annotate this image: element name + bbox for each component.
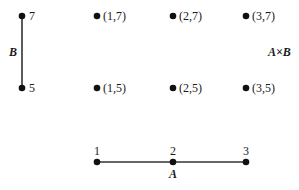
label-2-7: (2,7) xyxy=(179,9,202,23)
point-1-7 xyxy=(94,13,101,20)
label-set-b: B xyxy=(8,45,17,59)
point-3-7 xyxy=(243,13,250,20)
label-a-2: 2 xyxy=(170,144,176,158)
label-1-7: (1,7) xyxy=(103,9,126,23)
product-grid: (1,7) (2,7) (3,7) (1,5) (2,5) (3,5) A×B xyxy=(94,9,291,95)
label-3-5: (3,5) xyxy=(252,81,275,95)
label-b-7: 7 xyxy=(29,9,35,23)
point-2-5 xyxy=(170,85,177,92)
label-b-5: 5 xyxy=(29,81,35,95)
label-a-3: 3 xyxy=(243,144,249,158)
point-b-7 xyxy=(19,13,26,20)
label-set-a: A xyxy=(168,167,177,181)
point-1-5 xyxy=(94,85,101,92)
cartesian-product-diagram: 7 5 B (1,7) (2,7) (3,7) (1,5) (2,5) (3,5… xyxy=(0,0,299,190)
label-3-7: (3,7) xyxy=(252,9,275,23)
point-a-3 xyxy=(243,159,250,166)
set-b: 7 5 B xyxy=(8,9,35,95)
label-product: A×B xyxy=(267,45,291,59)
point-a-2 xyxy=(170,159,177,166)
set-a: 1 2 3 A xyxy=(94,144,250,181)
label-a-1: 1 xyxy=(94,144,100,158)
point-a-1 xyxy=(94,159,101,166)
label-1-5: (1,5) xyxy=(103,81,126,95)
point-b-5 xyxy=(19,85,26,92)
label-2-5: (2,5) xyxy=(179,81,202,95)
point-2-7 xyxy=(170,13,177,20)
point-3-5 xyxy=(243,85,250,92)
